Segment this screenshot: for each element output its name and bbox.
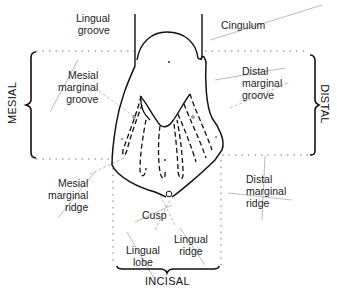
distal-brace: [310, 55, 319, 155]
label-lingual-ridge: Lingual ridge: [174, 233, 208, 257]
grooves: [123, 94, 212, 179]
mesial-brace: [26, 52, 36, 158]
direction-incisal: INCISAL: [145, 275, 190, 287]
direction-mesial: MESIAL: [6, 84, 18, 124]
root-outline: [135, 14, 202, 66]
label-distal-marginal-groove: Distal marginal groove: [242, 65, 282, 101]
cingulum-outline: [137, 32, 202, 60]
label-cingulum: Cingulum: [221, 19, 265, 31]
cusp-tip: [166, 191, 172, 197]
tooth-diagram: [0, 0, 337, 292]
label-lingual-groove: Lingual groove: [76, 12, 110, 36]
label-cusp: Cusp: [142, 209, 167, 221]
label-lingual-lobe: Lingual lobe: [126, 244, 160, 268]
small-marks: [121, 61, 217, 161]
label-mesial-marginal-groove: Mesial marginal groove: [58, 69, 98, 105]
label-mesial-marginal-ridge: Mesial marginal ridge: [48, 177, 88, 213]
direction-distal: DISTAL: [319, 84, 331, 124]
label-distal-marginal-ridge: Distal marginal ridge: [246, 173, 286, 209]
cingulum-lobe: [140, 94, 190, 127]
crown-outline: [112, 56, 223, 197]
